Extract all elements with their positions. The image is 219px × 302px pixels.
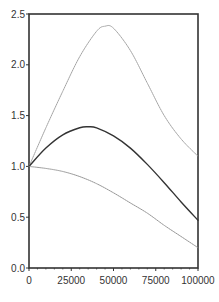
y-tick-label: 1.0 bbox=[11, 161, 25, 172]
y-tick-label: 0.5 bbox=[11, 212, 25, 223]
y-tick-label: 2.5 bbox=[11, 9, 25, 20]
y-axis: 0.00.51.01.52.02.5 bbox=[11, 9, 29, 274]
x-tick-label: 100000 bbox=[181, 275, 215, 286]
x-tick-label: 75000 bbox=[142, 275, 170, 286]
y-tick-label: 2.0 bbox=[11, 59, 25, 70]
series-lower-line bbox=[29, 166, 198, 247]
x-tick-label: 50000 bbox=[100, 275, 128, 286]
series-layer bbox=[29, 25, 198, 247]
x-tick-label: 25000 bbox=[57, 275, 85, 286]
y-tick-label: 1.5 bbox=[11, 110, 25, 121]
series-middle-line bbox=[29, 127, 198, 221]
x-axis: 0250005000075000100000 bbox=[26, 268, 215, 286]
y-tick-label: 0.0 bbox=[11, 263, 25, 274]
series-upper-line bbox=[29, 25, 198, 166]
line-chart: 0.00.51.01.52.02.5 025000500007500010000… bbox=[0, 0, 219, 302]
x-tick-label: 0 bbox=[26, 275, 32, 286]
